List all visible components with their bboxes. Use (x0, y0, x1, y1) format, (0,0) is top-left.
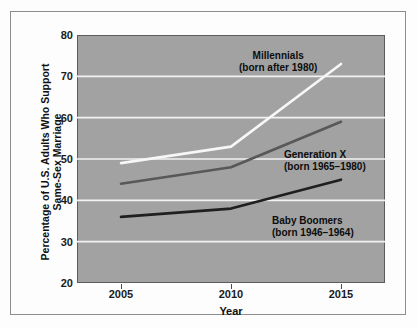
x-tick-2010: 2010 (201, 289, 261, 300)
y-tick-40: 40 (47, 195, 73, 206)
y-tick-80: 80 (47, 30, 73, 41)
series-label-millennials-sub: (born after 1980) (239, 62, 317, 74)
series-label-genx: Generation X (born 1965–1980) (284, 149, 366, 173)
plot-region: Millennials (born after 1980) Generation… (77, 35, 385, 283)
y-tick-20: 20 (47, 278, 73, 289)
series-lines (121, 64, 341, 217)
series-label-boomers-sub: (born 1946–1964) (272, 227, 354, 239)
x-tick-2005: 2005 (91, 289, 151, 300)
figure: Percentage of U.S. Adults Who Support Sa… (0, 0, 418, 328)
series-label-millennials: Millennials (born after 1980) (239, 50, 317, 74)
x-axis-ticks: 2005 2010 2015 (77, 289, 385, 305)
series-label-millennials-name: Millennials (239, 50, 317, 62)
x-axis-title: Year (77, 305, 385, 317)
series-label-genx-name: Generation X (284, 149, 366, 161)
y-tick-30: 30 (47, 236, 73, 247)
y-tick-60: 60 (47, 112, 73, 123)
y-tick-50: 50 (47, 154, 73, 165)
series-label-boomers-name: Baby Boomers (272, 215, 354, 227)
y-tick-70: 70 (47, 71, 73, 82)
series-line-baby-boomers (121, 180, 341, 217)
series-label-genx-sub: (born 1965–1980) (284, 161, 366, 173)
y-axis-ticks: 20 30 40 50 60 70 80 (45, 35, 73, 283)
series-label-boomers: Baby Boomers (born 1946–1964) (272, 215, 354, 239)
x-tick-2015: 2015 (311, 289, 371, 300)
